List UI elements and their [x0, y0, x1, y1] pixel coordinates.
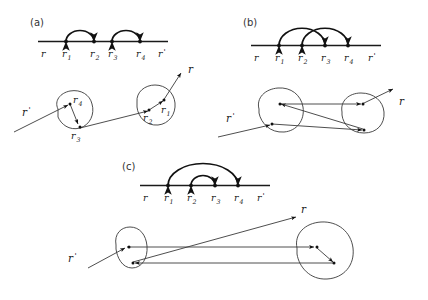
panel-c-ray-inner-right	[317, 248, 333, 262]
panel-a-site-r2-sub: 2	[148, 118, 153, 125]
panel-b-node-r2	[300, 44, 304, 48]
panel-a-label-in-rprime: r '	[22, 105, 31, 118]
panel-b-in-base: r	[226, 112, 232, 124]
panel-b-label-r4-sub: 4	[349, 58, 354, 65]
panel-b-label-in-rprime: r '	[226, 111, 235, 124]
panel-b-arc-diagram: r r 1 r 2 r 3 r 4 r '	[251, 28, 381, 64]
panel-a-site-label-r1: r 1	[161, 104, 171, 117]
panel-a-label-r-start: r	[41, 48, 47, 59]
panel-c-label-in-rprime: r '	[68, 251, 77, 264]
panel-c-ray-out	[133, 217, 296, 262]
panel-a: (a) r r 1 r 2 r 3	[14, 17, 194, 143]
panel-b-site-lower-left	[271, 123, 274, 126]
panel-c-label-r3: r 3	[211, 192, 221, 205]
panel-a-scattering-diagram: r 4 r 3 r 2 r 1 r ' r	[14, 63, 194, 143]
panel-a-site-label-r2: r 2	[143, 112, 153, 125]
panel-b-label-r2: r 2	[298, 52, 308, 65]
panel-c-blob-left	[116, 227, 147, 268]
panel-b-node-r3	[323, 44, 327, 48]
panel-a-label-out-r: r	[188, 63, 194, 75]
panel-a-label-r4: r 4	[136, 48, 146, 61]
panel-b-label-r1-sub: 1	[281, 58, 285, 65]
panel-b-tag: (b)	[243, 17, 257, 28]
panel-b-label-out-r: r	[399, 95, 405, 107]
scattering-diagram-figure: (a) r r 1 r 2 r 3	[0, 0, 428, 300]
panel-c-label-r3-sub: 3	[217, 198, 221, 205]
panel-a-site-r3	[79, 126, 82, 129]
panel-a-label-r2: r 2	[90, 48, 100, 61]
panel-c-node-r3	[213, 184, 217, 188]
panel-c-label-r1: r 1	[164, 192, 174, 205]
panel-a-label-r2-sub: 2	[95, 54, 100, 61]
panel-c-node-r2	[189, 184, 193, 188]
panel-b: (b) r r 1 r 2 r 3	[218, 17, 405, 137]
panel-b-label-rprime-mark: '	[374, 51, 376, 60]
panel-a-site-r1	[163, 99, 166, 102]
panel-c-node-r1	[166, 184, 170, 188]
panel-a-node-r2	[92, 40, 96, 44]
panel-b-scattering-diagram: r ' r	[218, 88, 405, 137]
panel-c-site-upper-right	[316, 246, 319, 249]
panel-b-blob-right	[342, 93, 384, 133]
panel-c-label-r4: r 4	[234, 192, 244, 205]
panel-c-node-r4	[236, 184, 240, 188]
panel-a-label-r4-sub: 4	[141, 54, 146, 61]
panel-c-in-base: r	[68, 252, 74, 264]
panel-a-site-label-r4: r 4	[73, 94, 83, 107]
panel-c-label-r4-sub: 4	[239, 198, 244, 205]
panel-c: (c) r r 1 r 2 r 3	[68, 161, 353, 279]
panel-c-site-lower-right	[333, 262, 336, 265]
panel-a-site-r4-sub: 4	[78, 100, 83, 107]
panel-a-arc-r1-r2	[66, 31, 94, 42]
panel-a-node-r1	[64, 40, 68, 44]
panel-c-ray-in	[88, 248, 125, 268]
panel-a-label-r1: r 1	[62, 48, 72, 61]
panel-c-label-r2: r 2	[187, 192, 197, 205]
figure-root: (a) r r 1 r 2 r 3	[0, 0, 428, 300]
panel-b-label-r-end: r '	[368, 51, 376, 64]
panel-c-label-r-start: r	[143, 192, 149, 203]
panel-b-site-lower-right	[363, 129, 366, 132]
panel-b-label-r4: r 4	[344, 52, 354, 65]
panel-c-scattering-diagram: r ' r	[68, 203, 353, 279]
panel-a-arc-r3-r4	[112, 31, 140, 42]
panel-a-in-mark: '	[29, 105, 31, 114]
panel-b-site-upper-left	[279, 103, 282, 106]
panel-b-label-r-start: r	[254, 52, 260, 63]
panel-a-in-base: r	[22, 106, 28, 118]
panel-c-arc-r2-r3	[191, 176, 215, 186]
panel-a-node-r4	[138, 40, 142, 44]
panel-c-blob-right	[297, 222, 354, 279]
panel-b-label-r3: r 3	[321, 52, 331, 65]
panel-b-ray-in	[218, 125, 270, 137]
panel-c-label-out-r: r	[301, 203, 307, 215]
panel-c-tag: (c)	[122, 161, 135, 172]
panel-b-label-r1: r 1	[275, 52, 285, 65]
panel-a-label-r1-sub: 1	[68, 54, 72, 61]
panel-b-node-r4	[346, 44, 350, 48]
panel-a-site-label-r3: r 3	[71, 130, 81, 143]
panel-b-ray-out	[362, 89, 393, 104]
panel-a-ray-r4-r3	[70, 104, 78, 124]
panel-a-site-r3-sub: 3	[77, 136, 81, 143]
panel-a-node-r3	[110, 40, 114, 44]
panel-c-arc-r1-r4	[168, 164, 238, 186]
panel-c-label-rprime-mark: '	[263, 191, 265, 200]
panel-c-label-r2-sub: 2	[192, 198, 197, 205]
panel-a-site-r4	[69, 103, 72, 106]
panel-a-tag: (a)	[30, 17, 44, 28]
panel-b-site-upper-right	[362, 103, 365, 106]
panel-c-in-mark: '	[75, 251, 77, 260]
panel-c-label-r1-sub: 1	[170, 198, 174, 205]
panel-a-arc-diagram: r r 1 r 2 r 3 r 4 r '	[38, 31, 168, 61]
panel-a-ray-out	[163, 73, 181, 101]
panel-b-label-r3-sub: 3	[327, 58, 331, 65]
panel-c-site-lower-left	[132, 262, 135, 265]
panel-b-label-r2-sub: 2	[303, 58, 308, 65]
panel-a-label-r3: r 3	[108, 48, 118, 61]
panel-a-site-r1-sub: 1	[167, 110, 171, 117]
panel-c-label-r-end: r '	[257, 191, 265, 204]
panel-a-label-r3-sub: 3	[114, 54, 118, 61]
panel-c-arc-diagram: r r 1 r 2 r 3 r 4 r '	[140, 164, 270, 205]
panel-b-in-mark: '	[233, 111, 235, 120]
